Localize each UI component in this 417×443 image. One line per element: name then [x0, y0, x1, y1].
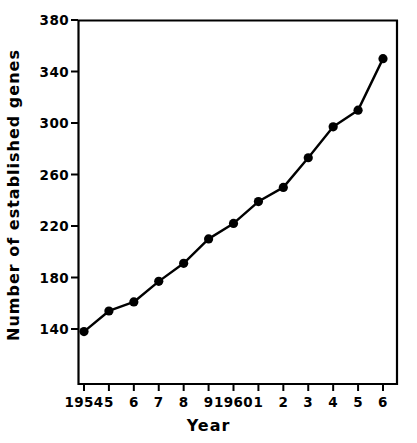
y-axis-ticks [71, 20, 78, 329]
x-tick-label: 6 [353, 394, 413, 410]
data-point-marker [229, 219, 238, 228]
data-point-marker [353, 106, 362, 115]
x-axis-title: Year [0, 416, 417, 435]
data-point-markers [79, 54, 387, 336]
data-point-marker [129, 297, 138, 306]
data-point-marker [254, 197, 263, 206]
y-tick-label: 140 [40, 321, 69, 337]
data-point-marker [279, 183, 288, 192]
y-tick-label: 380 [40, 12, 69, 28]
data-point-marker [378, 54, 387, 63]
data-point-marker [329, 122, 338, 131]
data-point-marker [104, 306, 113, 315]
y-tick-label: 340 [40, 64, 69, 80]
axes [78, 20, 398, 385]
chart-figure: 140180220260300340380 195456789196012345… [0, 0, 417, 443]
data-point-marker [204, 234, 213, 243]
y-tick-label: 260 [40, 167, 69, 183]
data-point-marker [79, 327, 88, 336]
data-line-series [84, 59, 383, 332]
y-tick-label: 220 [40, 218, 69, 234]
data-point-marker [154, 277, 163, 286]
y-axis-title: Number of established genes [4, 30, 23, 360]
y-tick-label: 300 [40, 115, 69, 131]
data-point-marker [304, 153, 313, 162]
data-point-marker [179, 259, 188, 268]
y-tick-label: 180 [40, 270, 69, 286]
